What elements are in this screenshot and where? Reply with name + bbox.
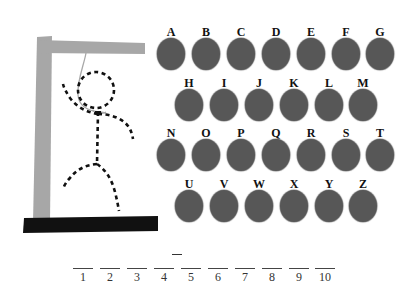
letter-button-u[interactable]: U bbox=[175, 181, 203, 213]
letter-label: P bbox=[227, 127, 255, 139]
letter-button-b[interactable]: B bbox=[192, 29, 220, 61]
letter-label: A bbox=[157, 26, 185, 38]
letter-button-s[interactable]: S bbox=[332, 130, 360, 162]
letter-label: B bbox=[192, 26, 220, 38]
letter-disc bbox=[349, 190, 377, 222]
letter-disc bbox=[262, 38, 290, 70]
figure-right-leg bbox=[97, 164, 119, 211]
hanged-figure bbox=[63, 72, 133, 211]
letter-label: K bbox=[280, 77, 308, 89]
letter-label: O bbox=[192, 127, 220, 139]
letter-label: S bbox=[332, 127, 360, 139]
letter-label: I bbox=[210, 77, 238, 89]
letter-button-i[interactable]: I bbox=[210, 80, 238, 112]
slot-underline bbox=[235, 268, 255, 269]
letter-button-t[interactable]: T bbox=[366, 130, 394, 162]
letter-disc bbox=[227, 139, 255, 171]
slot-underline bbox=[289, 268, 309, 269]
letter-disc bbox=[332, 139, 360, 171]
letter-button-c[interactable]: C bbox=[227, 29, 255, 61]
letter-disc bbox=[315, 190, 343, 222]
letter-label: F bbox=[332, 26, 360, 38]
letter-button-g[interactable]: G bbox=[366, 29, 394, 61]
letter-button-o[interactable]: O bbox=[192, 130, 220, 162]
letter-button-f[interactable]: F bbox=[332, 29, 360, 61]
letter-label: V bbox=[210, 178, 238, 190]
letter-label: D bbox=[262, 26, 290, 38]
letter-disc bbox=[245, 190, 273, 222]
letter-disc bbox=[210, 190, 238, 222]
letter-button-l[interactable]: L bbox=[315, 80, 343, 112]
letter-button-y[interactable]: Y bbox=[315, 181, 343, 213]
letter-label: M bbox=[349, 77, 377, 89]
slot-underline bbox=[208, 268, 228, 269]
gallows-base bbox=[23, 216, 158, 233]
letter-button-q[interactable]: Q bbox=[262, 130, 290, 162]
letter-label: Q bbox=[262, 127, 290, 139]
letter-button-v[interactable]: V bbox=[210, 181, 238, 213]
letter-button-m[interactable]: M bbox=[349, 80, 377, 112]
letter-disc bbox=[366, 38, 394, 70]
letter-button-n[interactable]: N bbox=[157, 130, 185, 162]
letter-disc bbox=[280, 89, 308, 121]
letter-disc bbox=[332, 38, 360, 70]
letter-label: C bbox=[227, 26, 255, 38]
slot-dash-mark bbox=[172, 254, 182, 255]
figure-neck-knot bbox=[95, 111, 101, 113]
letter-disc bbox=[262, 139, 290, 171]
slot-number: 8 bbox=[262, 271, 282, 283]
slot-underline bbox=[315, 268, 335, 269]
letter-label: T bbox=[366, 127, 394, 139]
letter-label: U bbox=[175, 178, 203, 190]
slot-underline bbox=[127, 268, 147, 269]
slot-number: 3 bbox=[127, 271, 147, 283]
slot-number: 4 bbox=[154, 271, 174, 283]
slot-underline bbox=[262, 268, 282, 269]
letter-button-z[interactable]: Z bbox=[349, 181, 377, 213]
slot-number: 10 bbox=[315, 271, 335, 283]
letter-disc bbox=[297, 139, 325, 171]
letter-disc bbox=[245, 89, 273, 121]
letter-disc bbox=[192, 139, 220, 171]
letter-disc bbox=[157, 38, 185, 70]
gallows-post bbox=[33, 36, 52, 222]
letter-label: E bbox=[297, 26, 325, 38]
letter-label: N bbox=[157, 127, 185, 139]
letter-button-d[interactable]: D bbox=[262, 29, 290, 61]
figure-right-arm bbox=[98, 114, 133, 139]
letter-button-j[interactable]: J bbox=[245, 80, 273, 112]
letter-disc bbox=[227, 38, 255, 70]
letter-disc bbox=[175, 89, 203, 121]
slot-underline bbox=[73, 268, 93, 269]
slot-number: 1 bbox=[73, 271, 93, 283]
letter-button-e[interactable]: E bbox=[297, 29, 325, 61]
letter-label: X bbox=[280, 178, 308, 190]
letter-disc bbox=[175, 190, 203, 222]
letter-disc bbox=[315, 89, 343, 121]
letter-disc bbox=[297, 38, 325, 70]
figure-left-leg bbox=[63, 164, 97, 189]
letter-button-p[interactable]: P bbox=[227, 130, 255, 162]
letter-disc bbox=[192, 38, 220, 70]
letter-button-k[interactable]: K bbox=[280, 80, 308, 112]
letter-button-a[interactable]: A bbox=[157, 29, 185, 61]
figure-left-arm bbox=[63, 84, 98, 114]
letter-label: H bbox=[175, 77, 203, 89]
slot-number: 5 bbox=[181, 271, 201, 283]
rope bbox=[78, 53, 106, 113]
letter-button-r[interactable]: R bbox=[297, 130, 325, 162]
slot-number: 7 bbox=[235, 271, 255, 283]
letter-disc bbox=[280, 190, 308, 222]
slot-number: 9 bbox=[289, 271, 309, 283]
letter-label: R bbox=[297, 127, 325, 139]
letter-label: Z bbox=[349, 178, 377, 190]
letter-label: W bbox=[245, 178, 273, 190]
letter-button-w[interactable]: W bbox=[245, 181, 273, 213]
letter-button-h[interactable]: H bbox=[175, 80, 203, 112]
figure-body bbox=[97, 112, 98, 164]
slot-number: 6 bbox=[208, 271, 228, 283]
slot-underline bbox=[154, 268, 174, 269]
letter-disc bbox=[210, 89, 238, 121]
letter-button-x[interactable]: X bbox=[280, 181, 308, 213]
letter-disc bbox=[366, 139, 394, 171]
